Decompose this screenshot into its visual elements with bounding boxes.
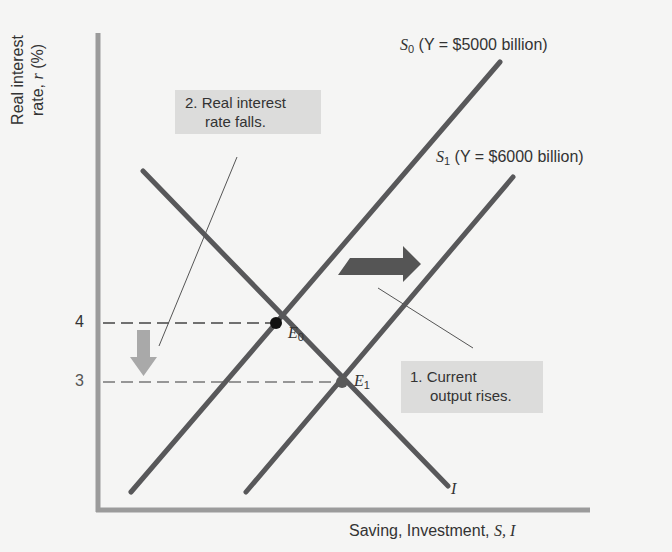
e1-sub: 1 — [364, 379, 370, 391]
point-e1 — [336, 376, 348, 388]
chart-canvas — [0, 0, 672, 552]
s0-text: (Y = $5000 billion) — [414, 36, 548, 53]
x-axis-label: Saving, Investment, S, I — [349, 522, 515, 540]
x-axis-variables: S, I — [494, 522, 515, 539]
annotation-rate-falls: 2. Real interest rate falls. — [175, 90, 321, 134]
y-axis-label-line2: rate, r (%) — [28, 0, 48, 160]
label-e1: E1 — [354, 372, 370, 391]
curve-s1 — [246, 177, 513, 492]
i-var: I — [451, 480, 456, 497]
y-axis-label-line1: Real interest — [8, 0, 28, 160]
y-axis-variable: r — [29, 73, 46, 79]
tick-label-3: 3 — [75, 372, 84, 390]
label-e0: E0 — [288, 324, 304, 343]
point-e0 — [270, 317, 282, 329]
e1-var: E — [354, 372, 364, 389]
tick-label-4: 4 — [75, 313, 84, 331]
y-axis-unit: (%) — [29, 44, 46, 73]
s1-var: S — [436, 148, 444, 165]
down-arrow-icon — [130, 330, 157, 376]
label-s1: S1 (Y = $6000 billion) — [436, 148, 584, 167]
annotation-output-rises: 1. Current output rises. — [401, 361, 543, 413]
s1-text: (Y = $6000 billion) — [450, 148, 584, 165]
annotation-output-rises-line1: 1. Current — [410, 367, 543, 386]
e0-sub: 0 — [298, 331, 304, 343]
y-axis-label-text: rate, — [29, 80, 46, 116]
y-axis-label: Real interest rate, r (%) — [8, 0, 48, 160]
annotation-output-rises-line2: output rises. — [410, 386, 543, 405]
leader-line-ann2 — [159, 157, 237, 346]
s0-var: S — [400, 36, 408, 53]
annotation-rate-falls-line2: rate falls. — [185, 112, 321, 131]
shift-right-arrow-icon — [338, 246, 421, 282]
label-i: I — [451, 480, 456, 498]
label-s0: S0 (Y = $5000 billion) — [400, 36, 548, 55]
x-axis-label-text: Saving, Investment, — [349, 522, 494, 539]
annotation-rate-falls-line1: 2. Real interest — [185, 93, 321, 112]
e0-var: E — [288, 324, 298, 341]
